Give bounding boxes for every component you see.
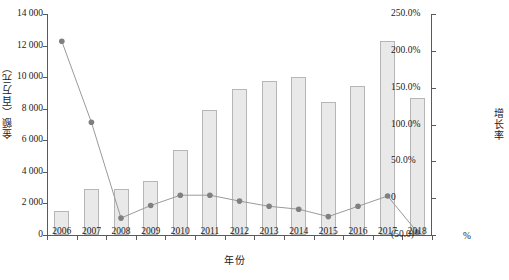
y-axis-right-unit: % (463, 231, 471, 241)
x-axis-tick-2 (106, 236, 107, 240)
y-axis-right-label-2: 50.0% (391, 155, 443, 165)
chart-container: 金额（百万元） 增长率 年份 % 02 0004 0006 0008 00010… (0, 0, 509, 280)
x-axis-tick-1 (77, 236, 78, 240)
growth-line-layer (47, 14, 432, 236)
y-axis-left-tick-2 (43, 172, 47, 173)
x-axis-tick-6 (225, 236, 226, 240)
y-axis-left-tick-6 (43, 46, 47, 47)
x-axis-tick-5 (195, 236, 196, 240)
x-axis-tick-4 (165, 236, 166, 240)
x-axis-label-2018: 2018 (397, 226, 437, 236)
y-axis-right-label-4: 150.0% (391, 82, 443, 92)
y-axis-left-tick-1 (43, 203, 47, 204)
x-axis-tick-7 (254, 236, 255, 240)
growth-marker-2009 (148, 203, 154, 209)
y-axis-left-label-12000: 12 000 (1, 40, 43, 50)
y-axis-left-label-4000: 4 000 (1, 166, 43, 176)
growth-marker-2014 (296, 206, 302, 212)
y-axis-left-label-8000: 8 000 (1, 103, 43, 113)
y-axis-right-label-1: 0 (391, 192, 443, 202)
y-axis-left-label-2000: 2 000 (1, 197, 43, 207)
growth-marker-2012 (237, 198, 243, 204)
y-axis-left-label-0: 0 (1, 229, 43, 239)
growth-marker-2011 (207, 192, 213, 198)
growth-marker-2010 (178, 192, 184, 198)
growth-marker-2017 (385, 193, 391, 199)
x-axis-tick-10 (343, 236, 344, 240)
x-axis-tick-3 (136, 236, 137, 240)
x-axis-tick-8 (284, 236, 285, 240)
growth-marker-2007 (89, 120, 95, 126)
x-axis-tick-11 (373, 236, 374, 240)
y-axis-left-tick-3 (43, 140, 47, 141)
y-axis-left-label-6000: 6 000 (1, 134, 43, 144)
y-axis-right-label-3: 100.0% (391, 119, 443, 129)
plot-area (47, 14, 432, 236)
growth-marker-2013 (266, 204, 272, 210)
growth-marker-2016 (355, 204, 361, 210)
y-axis-right-label-5: 200.0% (391, 45, 443, 55)
y-axis-left-tick-7 (43, 14, 47, 15)
x-axis-title: 年份 (0, 252, 470, 267)
y-axis-left-tick-5 (43, 77, 47, 78)
y-axis-left-label-14000: 14 000 (1, 8, 43, 18)
growth-marker-2015 (326, 214, 332, 220)
x-axis-tick-9 (314, 236, 315, 240)
y-axis-right-title: 增长率 (489, 108, 503, 141)
x-axis-tick-0 (47, 236, 48, 240)
growth-marker-2008 (118, 215, 124, 221)
y-axis-right-label-6: 250.0% (391, 8, 443, 18)
y-axis-left-label-10000: 10 000 (1, 71, 43, 81)
y-axis-left-tick-4 (43, 109, 47, 110)
growth-marker-2006 (59, 39, 65, 45)
